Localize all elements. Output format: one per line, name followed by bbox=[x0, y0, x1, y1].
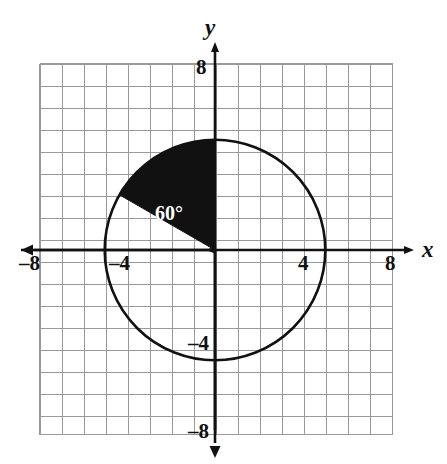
x-tick-label-pos4: 4 bbox=[298, 253, 309, 274]
y-axis-down-arrowhead bbox=[210, 446, 221, 458]
x-axis-label: x bbox=[422, 238, 434, 261]
coordinate-plane-figure bbox=[0, 0, 447, 464]
x-tick-label-neg4: –4 bbox=[109, 253, 130, 274]
x-tick-label-neg8: –8 bbox=[19, 253, 40, 274]
y-tick-label-neg8: –8 bbox=[188, 421, 209, 442]
x-tick-label-pos8: 8 bbox=[385, 253, 396, 274]
y-axis-label: y bbox=[205, 16, 215, 39]
y-tick-label-pos4: 4 bbox=[196, 145, 207, 166]
sector-angle-label: 60° bbox=[155, 203, 183, 223]
y-tick-label-pos8: 8 bbox=[196, 57, 207, 78]
y-tick-label-neg4: –4 bbox=[188, 333, 209, 354]
